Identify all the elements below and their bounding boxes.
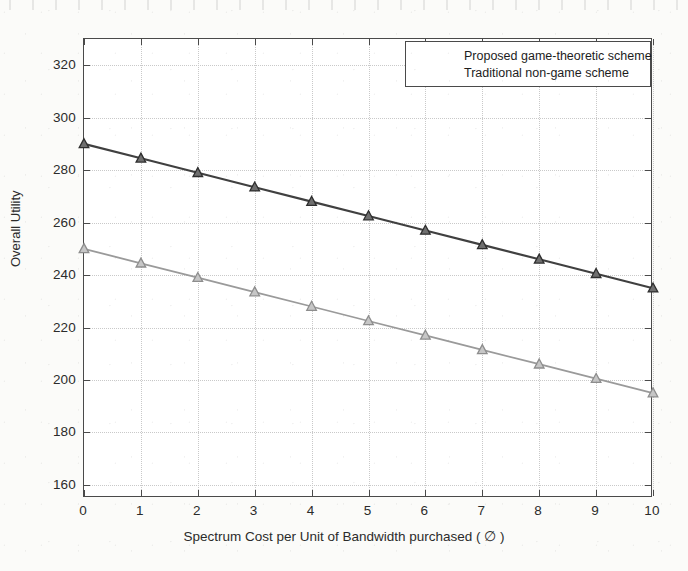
- x-tick-label: 3: [250, 503, 258, 518]
- y-tick-label: 180: [30, 424, 76, 439]
- x-tick: [653, 490, 654, 496]
- x-tick-label: 6: [421, 503, 429, 518]
- y-axis-title: Overall Utility: [8, 190, 23, 267]
- x-tick-label: 0: [79, 503, 87, 518]
- figure-canvas: Overall Utility 160180200220240260280300…: [0, 0, 688, 571]
- legend-label-primary: Proposed game-theoretic scheme: [464, 49, 652, 63]
- data-point-marker: [79, 139, 89, 148]
- x-tick-label: 8: [534, 503, 542, 518]
- y-tick-label: 300: [30, 109, 76, 124]
- x-axis-title: Spectrum Cost per Unit of Bandwidth purc…: [0, 528, 688, 544]
- y-tick-label: 200: [30, 371, 76, 386]
- x-tick-label: 1: [136, 503, 144, 518]
- legend-swatch-secondary: [411, 66, 459, 80]
- x-tick-label: 4: [307, 503, 315, 518]
- scan-artifact: [0, 0, 688, 10]
- y-tick-label: 160: [30, 476, 76, 491]
- y-tick-label: 220: [30, 319, 76, 334]
- legend[interactable]: Proposed game-theoretic scheme Tradition…: [405, 41, 651, 87]
- x-tick-label: 2: [193, 503, 201, 518]
- series-plot: [84, 39, 653, 498]
- x-tick-label: 10: [644, 503, 659, 518]
- legend-swatch-primary: [411, 49, 459, 63]
- x-tick-label: 7: [477, 503, 485, 518]
- legend-item-secondary[interactable]: Traditional non-game scheme: [411, 64, 644, 81]
- x-tick-label: 9: [591, 503, 599, 518]
- x-tick-label: 5: [364, 503, 372, 518]
- y-tick-label: 260: [30, 214, 76, 229]
- x-tick-top: [653, 39, 654, 45]
- legend-label-secondary: Traditional non-game scheme: [464, 66, 629, 80]
- y-tick-label: 280: [30, 162, 76, 177]
- y-tick-label: 240: [30, 267, 76, 282]
- y-tick-label: 320: [30, 57, 76, 72]
- legend-item-primary[interactable]: Proposed game-theoretic scheme: [411, 47, 644, 64]
- x-axis-tick-labels: 012345678910: [83, 503, 652, 523]
- data-point-marker: [79, 244, 89, 253]
- plot-area: Proposed game-theoretic scheme Tradition…: [83, 38, 652, 497]
- gridline-vertical: [653, 39, 654, 496]
